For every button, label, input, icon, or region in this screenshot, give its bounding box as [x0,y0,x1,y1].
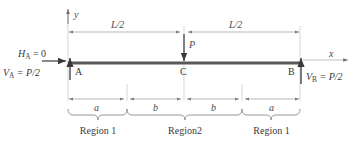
dimension-label-a-right: a [269,103,274,113]
region-label-1-right: Region 1 [243,126,300,136]
dimension-label-b-left: b [153,103,158,113]
reaction-label-ha: HA = 0 [18,49,46,61]
reaction-label-va: VA = P/2 [3,68,40,80]
reaction-subscript-a-2: A [9,72,14,80]
region-label-1-left: Region 1 [69,126,127,136]
dimension-label-left-half: L/2 [111,20,124,30]
y-axis-label: y [74,10,78,20]
reaction-subscript-a: A [25,53,30,61]
reaction-value-vb: = P/2 [319,71,342,82]
dimension-label-b-right: b [211,103,216,113]
x-axis-label: x [329,49,333,59]
reaction-value-va: = P/2 [17,67,40,78]
reaction-subscript-b: B [312,76,317,84]
point-label-a: A [75,67,82,77]
beam-diagram-canvas: y x L/2 L/2 P HA = 0 VA = P/2 VB = P/2 A… [0,0,357,146]
dimension-label-a-left: a [94,103,99,113]
region-label-2: Region2 [128,126,242,136]
dimension-label-right-half: L/2 [229,20,242,30]
reaction-label-vb: VB = P/2 [306,72,343,84]
load-label-p: P [189,40,195,50]
region-braces [68,109,300,120]
brace-region-2 [127,109,242,120]
reaction-value-ha: = 0 [33,48,46,59]
point-label-b: B [288,67,295,77]
point-label-c: C [180,67,187,77]
